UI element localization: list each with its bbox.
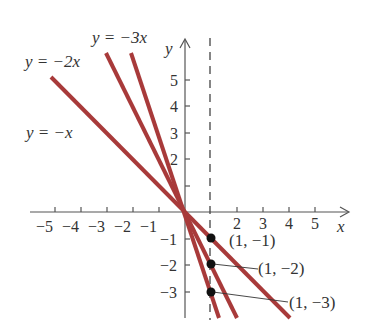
graph: −5 −4 −3 −2 −1 2 3 4 5 x 5 4 3 2 −1 −2 −… [0, 0, 380, 334]
y-axis-label: y [163, 39, 173, 58]
point-1-neg1 [207, 234, 216, 243]
tick-label: −3 [160, 284, 177, 301]
label-point-1-neg3: (1, −3) [289, 293, 335, 312]
tick-label: −3 [88, 218, 105, 235]
tick-label: −2 [114, 218, 131, 235]
tick-label: 2 [170, 151, 178, 168]
tick-label: −2 [160, 257, 177, 274]
tick-label: 3 [170, 125, 178, 142]
line-y-neg-2x [106, 53, 237, 318]
tick-label: −5 [36, 218, 53, 235]
y-ticks [185, 80, 190, 292]
label-point-1-neg2: (1, −2) [258, 259, 304, 278]
tick-label: −1 [160, 231, 177, 248]
tick-label: 5 [170, 72, 178, 89]
tick-label: 2 [233, 215, 241, 232]
tick-label: 4 [170, 98, 178, 115]
tick-label: −4 [62, 218, 79, 235]
y-axis [180, 39, 190, 318]
tick-label: −1 [140, 218, 157, 235]
x-axis-label: x [336, 217, 345, 236]
point-1-neg3 [207, 288, 216, 297]
tick-label: 5 [311, 215, 319, 232]
label-y-neg-2x: y = −2x [23, 52, 80, 71]
tick-label: 4 [285, 215, 293, 232]
tick-label: 3 [259, 215, 267, 232]
leader-p3 [213, 292, 288, 302]
label-point-1-neg1: (1, −1) [229, 231, 275, 250]
label-y-neg-3x: y = −3x [90, 28, 147, 47]
line-y-neg-3x [131, 53, 219, 318]
label-y-neg-x: y = −x [24, 123, 73, 142]
point-1-neg2 [207, 260, 216, 269]
